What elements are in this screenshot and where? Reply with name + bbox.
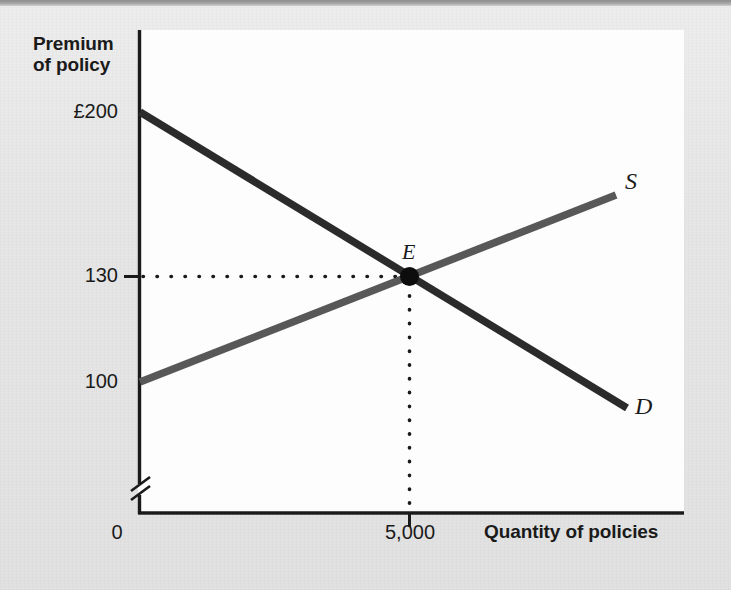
y-tick-label-100: 100 <box>56 370 118 393</box>
y-tick-label-130: 130 <box>56 264 118 287</box>
y-axis-title-line1: Premium <box>33 33 114 54</box>
y-axis-title: Premium of policy <box>33 33 114 75</box>
y-tick-label-200: £200 <box>56 100 118 123</box>
figure-canvas: Premium of policy £200 130 100 0 5,000 Q… <box>0 0 731 590</box>
demand-curve-label: D <box>635 393 652 420</box>
supply-curve-label: S <box>625 168 637 195</box>
equilibrium-point-marker <box>400 267 419 286</box>
tick-marks <box>124 277 410 528</box>
supply-demand-chart <box>0 0 731 590</box>
demand-curve <box>140 112 627 408</box>
equilibrium-guide-lines <box>143 277 410 510</box>
x-axis-title: Quantity of policies <box>484 521 658 542</box>
x-tick-label-5000: 5,000 <box>369 521 451 544</box>
origin-label: 0 <box>105 521 129 544</box>
equilibrium-label: E <box>402 239 415 265</box>
y-axis-title-line2: of policy <box>33 54 110 75</box>
